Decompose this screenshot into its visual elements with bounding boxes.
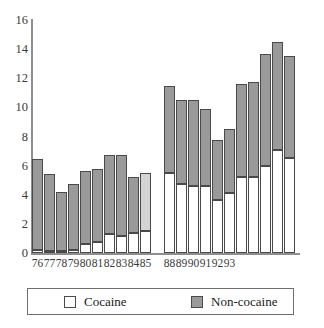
y-tick-label-6: 6 (4, 160, 28, 172)
bar-segment-non-cocaine (212, 140, 223, 200)
legend-entry-cocaine: Cocaine (64, 289, 127, 314)
bar-95 (248, 82, 259, 253)
bar-96 (260, 54, 271, 253)
y-tick-label-10: 10 (4, 101, 28, 113)
bar-segment-non-cocaine (140, 173, 151, 231)
bar-segment-cocaine (188, 186, 199, 253)
legend-entry-non-cocaine: Non-cocaine (191, 289, 277, 314)
y-tick-label-16: 16 (4, 14, 28, 26)
bar-segment-non-cocaine (32, 159, 43, 250)
y-tick-label-2: 2 (4, 218, 28, 230)
bar-segment-cocaine (260, 166, 271, 253)
bar-segment-cocaine (140, 231, 151, 253)
bar-98 (284, 56, 295, 253)
legend-swatch-non-cocaine-icon (191, 296, 203, 308)
bar-segment-non-cocaine (128, 177, 139, 233)
bar-segment-cocaine (236, 177, 247, 253)
y-tick-label-4: 4 (4, 189, 28, 201)
y-tick-label-8: 8 (4, 131, 28, 143)
bar-88 (164, 86, 175, 253)
bar-segment-non-cocaine (188, 100, 199, 186)
bar-89 (176, 100, 187, 253)
bar-segment-cocaine (224, 193, 235, 253)
bar-segment-cocaine (104, 234, 115, 253)
bar-segment-non-cocaine (200, 109, 211, 186)
bar-78 (56, 192, 67, 253)
bar-94 (236, 84, 247, 253)
bar-84 (128, 177, 139, 253)
y-tick-label-12: 12 (4, 72, 28, 84)
bar-segment-cocaine (44, 251, 55, 253)
bar-chart: 0246810121416 76777879808182838485888990… (0, 0, 324, 328)
bar-92 (212, 140, 223, 253)
bar-82 (104, 155, 115, 253)
bar-77 (44, 174, 55, 253)
bar-segment-cocaine (92, 242, 103, 253)
legend-swatch-cocaine-icon (64, 296, 76, 308)
bar-segment-cocaine (212, 200, 223, 253)
bar-80 (80, 171, 91, 253)
bar-segment-cocaine (116, 236, 127, 253)
bar-91 (200, 109, 211, 253)
bar-85 (140, 173, 151, 253)
bar-76 (32, 159, 43, 253)
bar-segment-cocaine (128, 233, 139, 253)
x-axis-line (31, 253, 300, 255)
bar-segment-cocaine (56, 251, 67, 253)
legend-label-non-cocaine: Non-cocaine (211, 295, 277, 309)
y-tick-label-14: 14 (4, 43, 28, 55)
bar-segment-non-cocaine (44, 174, 55, 250)
bar-segment-cocaine (272, 150, 283, 253)
bar-segment-non-cocaine (272, 42, 283, 150)
bar-segment-non-cocaine (248, 82, 259, 177)
bar-segment-non-cocaine (56, 192, 67, 251)
bar-segment-non-cocaine (116, 155, 127, 236)
y-axis-tick-labels: 0246810121416 (0, 0, 28, 328)
x-tick-label-85: 85 (138, 256, 153, 270)
bar-segment-cocaine (68, 250, 79, 253)
bar-segment-non-cocaine (92, 169, 103, 243)
bar-segment-cocaine (176, 184, 187, 253)
bar-segment-cocaine (164, 173, 175, 253)
bar-segment-non-cocaine (164, 86, 175, 173)
bar-93 (224, 129, 235, 253)
bar-segment-cocaine (32, 250, 43, 253)
bar-97 (272, 42, 283, 253)
bar-segment-cocaine (200, 186, 211, 253)
bar-segment-non-cocaine (80, 171, 91, 244)
bar-segment-cocaine (248, 177, 259, 253)
bar-segment-non-cocaine (224, 129, 235, 193)
bar-90 (188, 100, 199, 253)
bar-segment-cocaine (80, 244, 91, 253)
bar-segment-non-cocaine (104, 155, 115, 234)
x-axis-tick-labels: 76777879808182838485888990919293 (31, 256, 300, 274)
bar-segment-non-cocaine (236, 84, 247, 177)
bar-79 (68, 184, 79, 253)
bar-83 (116, 155, 127, 253)
bar-segment-non-cocaine (176, 100, 187, 184)
y-tick-label-0: 0 (4, 247, 28, 259)
chart-legend: Cocaine Non-cocaine (27, 288, 294, 315)
bar-segment-non-cocaine (260, 54, 271, 166)
x-tick-label-93: 93 (222, 256, 237, 270)
bar-segment-non-cocaine (284, 56, 295, 158)
bar-segment-cocaine (284, 158, 295, 253)
plot-area (31, 20, 299, 253)
bar-segment-non-cocaine (68, 184, 79, 250)
bar-81 (92, 169, 103, 253)
legend-label-cocaine: Cocaine (84, 295, 127, 309)
